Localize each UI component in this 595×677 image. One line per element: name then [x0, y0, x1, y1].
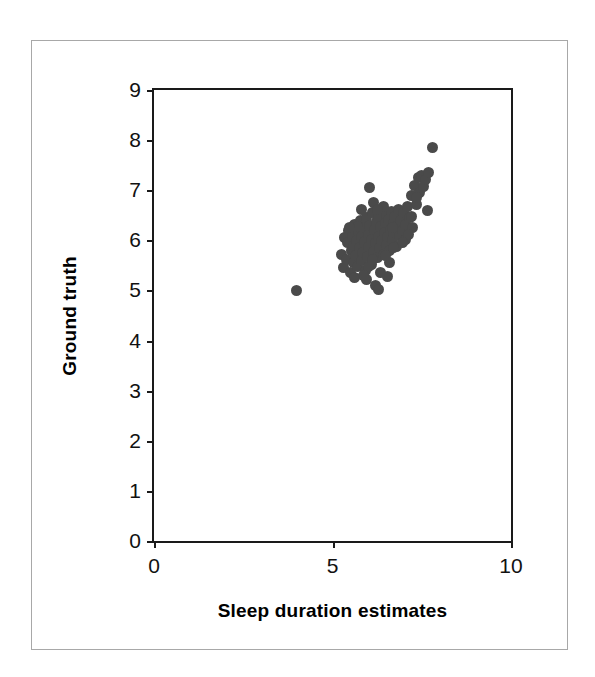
scatter-point: [356, 204, 367, 215]
y-tick-mark: [147, 441, 154, 443]
y-tick-label: 7: [129, 178, 141, 202]
y-tick-label: 2: [129, 429, 141, 453]
y-tick-label: 1: [129, 479, 141, 503]
y-tick-mark: [147, 90, 154, 92]
figure-root: Ground truth 01234567890510 Sleep durati…: [0, 0, 595, 677]
x-tick-mark: [154, 541, 156, 548]
scatter-point: [349, 272, 360, 283]
plot-frame: 01234567890510: [152, 88, 513, 543]
y-tick-label: 5: [129, 278, 141, 302]
y-tick-mark: [147, 240, 154, 242]
y-tick-mark: [147, 491, 154, 493]
y-tick-label: 6: [129, 228, 141, 252]
y-tick-label: 8: [129, 128, 141, 152]
y-tick-mark: [147, 341, 154, 343]
scatter-point: [406, 211, 417, 222]
x-tick-label: 5: [327, 554, 339, 578]
scatter-point: [427, 142, 438, 153]
scatter-point: [422, 205, 433, 216]
x-tick-label: 10: [499, 554, 522, 578]
y-tick-label: 9: [129, 78, 141, 102]
y-tick-mark: [147, 140, 154, 142]
x-axis-title: Sleep duration estimates: [152, 600, 513, 622]
y-axis-title-text: Ground truth: [59, 256, 81, 376]
scatter-point: [364, 182, 375, 193]
y-axis-title: Ground truth: [52, 88, 88, 543]
y-tick-mark: [147, 391, 154, 393]
scatter-point: [423, 167, 434, 178]
x-tick-mark: [333, 541, 335, 548]
x-tick-mark: [511, 541, 513, 548]
scatter-point: [372, 204, 383, 215]
plot-area: [154, 90, 511, 541]
scatter-point: [373, 284, 384, 295]
y-tick-label: 4: [129, 329, 141, 353]
y-tick-mark: [147, 290, 154, 292]
x-tick-label: 0: [148, 554, 160, 578]
scatter-point: [291, 285, 302, 296]
scatter-point: [367, 254, 378, 265]
y-tick-mark: [147, 190, 154, 192]
y-tick-mark: [147, 541, 154, 543]
y-tick-label: 0: [129, 529, 141, 553]
y-tick-label: 3: [129, 379, 141, 403]
